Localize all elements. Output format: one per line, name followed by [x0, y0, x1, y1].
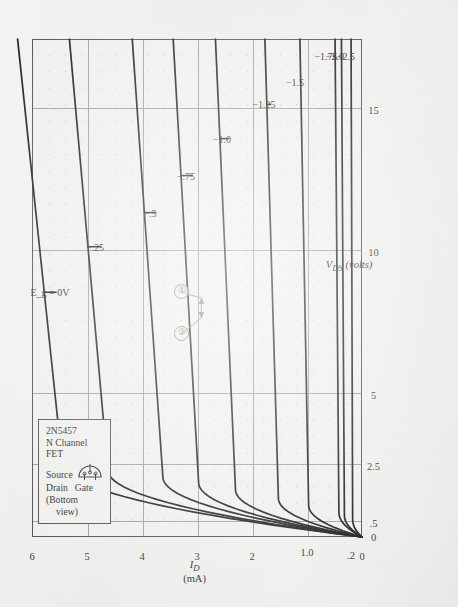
- legend-pin-source: Source: [46, 469, 73, 481]
- legend-view-line2: view): [46, 506, 104, 518]
- legend-pin-gate: Gate: [75, 482, 93, 494]
- curve-label: −1.0: [213, 133, 231, 144]
- legend-part-number: 2N5457: [46, 425, 104, 437]
- curve-label: −.75: [177, 170, 195, 181]
- gridline-horizontal: [198, 40, 199, 536]
- gridline-vertical: [33, 250, 361, 251]
- curve-label: −.5: [143, 207, 156, 218]
- legend-device-type: FET: [46, 448, 104, 460]
- page-caption-strip: [0, 581, 458, 607]
- x-tick-label: 0: [371, 532, 376, 543]
- curve-label: −1.25: [253, 99, 276, 110]
- curve-label: −2.5: [336, 51, 354, 62]
- y-tick-label: .2: [347, 550, 355, 561]
- x-tick-label: 10: [368, 247, 379, 258]
- legend-channel: N Channel: [46, 437, 104, 449]
- x-tick-label: 15: [368, 105, 379, 116]
- y-tick-label: 5: [84, 551, 89, 562]
- curve-label: −1.5: [286, 76, 304, 87]
- y-tick-label: 0: [359, 551, 364, 562]
- y-tick-label: 2: [249, 551, 254, 562]
- gridline-vertical: [33, 108, 361, 109]
- curve-label: E_g = 0V: [30, 287, 69, 298]
- plot-area: E_g = 0V−.25−.5−.75−1.0−1.25−1.5−1.75−2.…: [32, 39, 362, 537]
- legend-pinout: Source: [46, 461, 104, 481]
- legend-pin-labels: Drain Gate: [46, 482, 104, 494]
- legend-view-line1: (Bottom: [46, 494, 104, 506]
- y-tick-label: 6: [29, 551, 34, 562]
- y-tick-label: 1.0: [300, 547, 313, 558]
- gridline-horizontal: [253, 40, 254, 536]
- device-legend-box: 2N5457 N Channel FET Source: [38, 419, 111, 524]
- gridline-horizontal: [308, 40, 309, 536]
- curve-label: −.25: [86, 241, 104, 252]
- legend-pin-drain: Drain: [46, 482, 68, 494]
- x-tick-label: 5: [371, 389, 376, 400]
- to92-package-icon: [76, 461, 104, 481]
- x-tick-label: 2.5: [367, 460, 380, 471]
- scanned-chart-page: E_g = 0V−.25−.5−.75−1.0−1.25−1.5−1.75−2.…: [0, 0, 458, 607]
- x-axis-title: VDS (volts): [326, 259, 373, 273]
- x-tick-label: .5: [370, 517, 378, 528]
- rotated-figure-container: E_g = 0V−.25−.5−.75−1.0−1.25−1.5−1.75−2.…: [14, 13, 444, 593]
- gridline-vertical: [33, 393, 361, 394]
- annotation-callout-1: ①: [174, 284, 189, 299]
- gridline-horizontal: [143, 40, 144, 536]
- y-tick-label: 4: [139, 551, 144, 562]
